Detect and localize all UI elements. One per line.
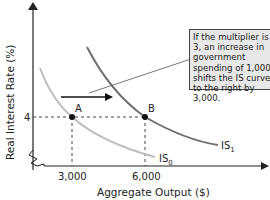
point-a [69,114,75,120]
y-tick-4: 4 [24,112,30,123]
is1-label: IS1 [221,140,235,154]
y-axis-arrowhead-icon [28,2,38,10]
x-tick-6000: 6,000 [132,171,161,182]
y-axis-title: Real Interest Rate (%) [4,45,16,160]
point-b-label: B [148,103,155,114]
x-axis-title: Aggregate Output ($) [97,186,210,198]
point-b [142,114,148,120]
point-a-label: A [75,103,82,114]
shift-arrowhead-icon [105,93,113,101]
x-tick-3000: 3,000 [58,171,87,182]
annotation-box: If the multiplier is 3, an increase in g… [189,29,270,90]
axis-break-icon [29,150,44,166]
is0-label: IS0 [159,153,173,167]
x-axis-arrowhead-icon [261,162,269,170]
